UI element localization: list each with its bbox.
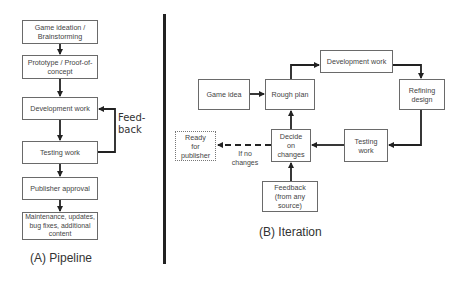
panel-divider <box>163 14 166 264</box>
step-label: Testing work <box>40 148 80 157</box>
pipeline-step-prototype: Prototype / Proof-of-concept <box>22 55 98 79</box>
node-label: Testing work <box>353 137 379 155</box>
step-label: Publisher approval <box>30 184 90 193</box>
node-label: Rough plan <box>272 90 309 99</box>
feedback-label: Feed-back <box>118 112 140 136</box>
pipeline-caption: (A) Pipeline <box>30 251 92 265</box>
step-label: Development work <box>30 104 90 113</box>
node-label: Ready for publisher <box>180 133 211 160</box>
node-label: Game idea <box>206 90 241 99</box>
step-label: Game ideation / Brainstorming <box>25 23 95 41</box>
node-testing-work: Testing work <box>344 129 388 162</box>
node-feedback: Feedback (from any source) <box>262 181 318 212</box>
step-label: Prototype / Proof-of-concept <box>25 58 95 76</box>
iteration-caption: (B) Iteration <box>259 225 322 239</box>
node-label: Decide on changes <box>275 132 307 159</box>
node-decide-on-changes: Decide on changes <box>271 129 311 162</box>
pipeline-step-publisher-approval: Publisher approval <box>22 177 98 200</box>
edge-label-if-no-changes: If no changes <box>229 150 261 167</box>
step-label: Maintenance, updates, bug fixes, additio… <box>25 213 95 239</box>
node-development-work: Development work <box>320 50 393 73</box>
node-label: Refining design <box>406 86 438 104</box>
node-ready-for-publisher: Ready for publisher <box>175 131 216 161</box>
node-label: Feedback (from any source) <box>270 183 310 210</box>
node-refining-design: Refining design <box>399 79 445 110</box>
node-label: Development work <box>327 57 387 66</box>
node-game-idea: Game idea <box>198 79 250 110</box>
pipeline-step-maintenance: Maintenance, updates, bug fixes, additio… <box>22 212 98 240</box>
pipeline-step-development: Development work <box>22 97 98 120</box>
pipeline-step-testing: Testing work <box>22 141 98 164</box>
pipeline-step-ideation: Game ideation / Brainstorming <box>22 20 98 44</box>
node-rough-plan: Rough plan <box>265 79 315 110</box>
